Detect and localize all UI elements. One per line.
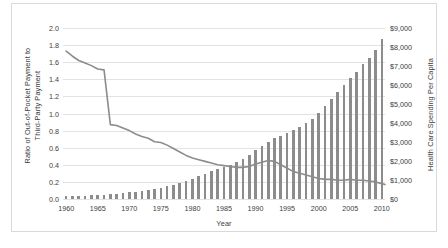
x-tick-label: 2005	[335, 204, 365, 213]
x-tick-label: 1960	[51, 204, 81, 213]
line-series	[63, 28, 385, 199]
left-tick-label: 1.4	[33, 75, 59, 84]
right-tick-label: $4,000	[390, 119, 424, 128]
right-tick-label: $2,000	[390, 157, 424, 166]
right-tick-label: $1,000	[390, 176, 424, 185]
x-tick-label: 1975	[146, 204, 176, 213]
left-tick-label: 1.2	[33, 92, 59, 101]
right-tick-label: $0	[390, 195, 424, 204]
left-tick-label: 0.4	[33, 161, 59, 170]
x-tick-label: 1980	[177, 204, 207, 213]
left-tick-label: 2.0	[33, 24, 59, 33]
right-tick-label: $3,000	[390, 138, 424, 147]
x-axis-title: Year	[0, 219, 448, 228]
left-axis-title-line1: Ratio of Out-of-Pocket Payment to	[23, 26, 33, 186]
left-tick-label: 1.0	[33, 110, 59, 119]
left-tick-label: 0.2	[33, 178, 59, 187]
chart-figure: Ratio of Out-of-Pocket Payment to Third-…	[0, 0, 448, 248]
left-tick-label: 0.6	[33, 144, 59, 153]
left-tick-label: 0.0	[33, 195, 59, 204]
x-tick-label: 1965	[83, 204, 113, 213]
plot-area	[63, 28, 385, 199]
right-tick-label: $5,000	[390, 100, 424, 109]
right-tick-label: $6,000	[390, 81, 424, 90]
left-tick-label: 0.8	[33, 127, 59, 136]
right-axis-title: Health Care Spending Per Capita	[426, 35, 435, 195]
ratio-line-path	[66, 51, 385, 184]
x-tick-label: 1995	[272, 204, 302, 213]
gridline	[63, 199, 385, 200]
x-tick-label: 2000	[304, 204, 334, 213]
left-tick-label: 1.8	[33, 41, 59, 50]
right-tick-label: $9,000	[390, 24, 424, 33]
right-tick-label: $8,000	[390, 43, 424, 52]
left-tick-label: 1.6	[33, 58, 59, 67]
x-tick-label: 1990	[241, 204, 271, 213]
x-tick-label: 1985	[209, 204, 239, 213]
x-tick-label: 2010	[367, 204, 397, 213]
x-tick-label: 1970	[114, 204, 144, 213]
right-tick-label: $7,000	[390, 62, 424, 71]
